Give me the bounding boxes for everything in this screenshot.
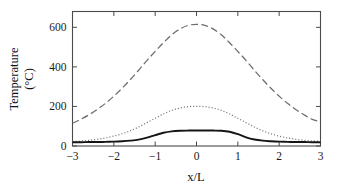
series-dotted-curve xyxy=(73,106,321,141)
temperature-profile-chart: 0200400600 −3−2−10123 x/L Temperature (°… xyxy=(0,0,340,192)
x-tick-label-1: 1 xyxy=(235,150,241,162)
x-tick-label-3: 3 xyxy=(318,150,324,162)
plot-frame xyxy=(73,12,321,147)
y-tick-label-400: 400 xyxy=(49,61,67,73)
chart-figure: 0200400600 −3−2−10123 x/L Temperature (°… xyxy=(0,0,340,192)
series-solid-curve xyxy=(73,131,321,143)
x-tick-label-−3: −3 xyxy=(66,150,78,162)
x-axis-tick-labels: −3−2−10123 xyxy=(66,150,323,162)
y-tick-label-200: 200 xyxy=(49,100,67,112)
y-axis-ticks xyxy=(73,27,321,146)
x-axis-title: x/L xyxy=(187,170,204,184)
series-long-dashed-curve xyxy=(73,24,321,123)
x-axis-ticks xyxy=(73,12,321,147)
x-tick-label-0: 0 xyxy=(194,150,200,162)
y-axis-tick-labels: 0200400600 xyxy=(49,21,67,152)
x-tick-label-−1: −1 xyxy=(149,150,161,162)
x-tick-label-−2: −2 xyxy=(108,150,120,162)
y-axis-title-line2: (°C) xyxy=(22,68,36,90)
x-tick-label-2: 2 xyxy=(276,150,282,162)
y-tick-label-600: 600 xyxy=(49,21,67,33)
y-axis-title-line1: Temperature xyxy=(7,47,21,110)
